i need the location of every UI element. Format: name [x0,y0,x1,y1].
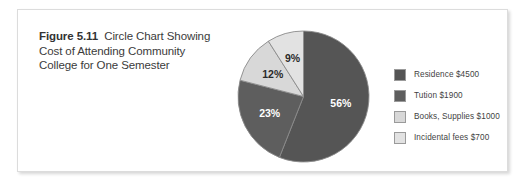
figure-caption: Figure 5.11 Circle Chart Showing Cost of… [39,29,214,73]
pie-percent-label-residence: 56% [330,97,352,109]
legend-label-books-supplies: Books, Supplies $1000 [414,112,500,121]
legend-swatch-books-supplies [394,111,406,123]
legend-swatch-residence [394,69,406,81]
legend-swatch-incidental-fees [394,132,406,144]
pie-percent-label-incidental-fees: 9% [285,52,301,64]
figure-root: Figure 5.11 Circle Chart Showing Cost of… [0,0,528,187]
pie-chart: 56%23%12%9% [237,25,370,167]
legend-item-residence: Residence $4500 [394,64,520,85]
legend-label-tuition: Tution $1900 [414,91,463,100]
pie-percent-label-books-supplies: 12% [262,68,284,80]
figure-container: Figure 5.11 Circle Chart Showing Cost of… [17,9,508,172]
legend-label-residence: Residence $4500 [414,70,479,79]
legend-item-books-supplies: Books, Supplies $1000 [394,106,520,127]
legend-item-tuition: Tution $1900 [394,85,520,106]
legend-swatch-tuition [394,90,406,102]
legend-item-incidental-fees: Incidental fees $700 [394,127,520,148]
pie-chart-svg: 56%23%12%9% [237,25,370,167]
legend-label-incidental-fees: Incidental fees $700 [414,133,489,142]
figure-number: Figure 5.11 [39,30,98,42]
pie-percent-label-tution: 23% [259,107,281,119]
chart-legend: Residence $4500 Tution $1900 Books, Supp… [394,64,520,148]
